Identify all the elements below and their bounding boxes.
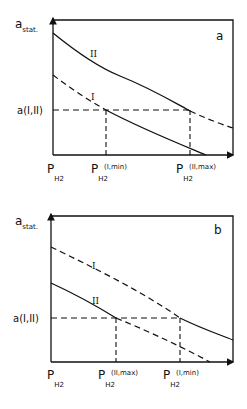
curve-I-dashed: [51, 247, 180, 318]
curve-I: [106, 110, 206, 155]
curve-label-II: II: [92, 296, 100, 306]
y-axis-label: astat.: [15, 17, 38, 34]
frame: [52, 216, 233, 362]
y-axis-label: astat.: [15, 214, 38, 231]
panel-a: a astat. a(I,II) II I PH2 PH2(I,min) PH2…: [15, 17, 233, 183]
x-label-origin: PH2: [47, 368, 64, 389]
curve-label-I: I: [92, 261, 96, 271]
yref-label: a(I,II): [17, 105, 43, 116]
frame: [54, 20, 233, 155]
x-label-II-max: PH2(II,max): [176, 162, 216, 183]
x-label-origin: PH2: [47, 162, 64, 183]
panel-b: b astat. a(I,II) I II PH2 PH2(II,max) PH…: [13, 214, 233, 389]
x-tick-labels: PH2 PH2(I,min) PH2(II,max): [47, 162, 216, 183]
yref-label: a(I,II): [13, 313, 39, 324]
curve-label-II: II: [90, 49, 98, 59]
x-label-I-min: PH2(I,min): [163, 368, 199, 389]
x-label-I-min: PH2(I,min): [91, 162, 127, 183]
curve-I: [180, 318, 233, 340]
x-label-II-max: PH2(II,max): [98, 368, 138, 389]
figure: a astat. a(I,II) II I PH2 PH2(I,min) PH2…: [0, 0, 247, 409]
curve-I-dashed: [53, 75, 106, 110]
curve-II-extension: [190, 111, 233, 128]
curve-label-I: I: [91, 92, 95, 102]
x-tick-labels: PH2 PH2(II,max) PH2(I,min): [47, 368, 199, 389]
curve-II: [53, 33, 190, 111]
curve-II: [51, 283, 116, 318]
panel-label-b: b: [214, 223, 222, 237]
panel-label-a: a: [216, 29, 223, 43]
